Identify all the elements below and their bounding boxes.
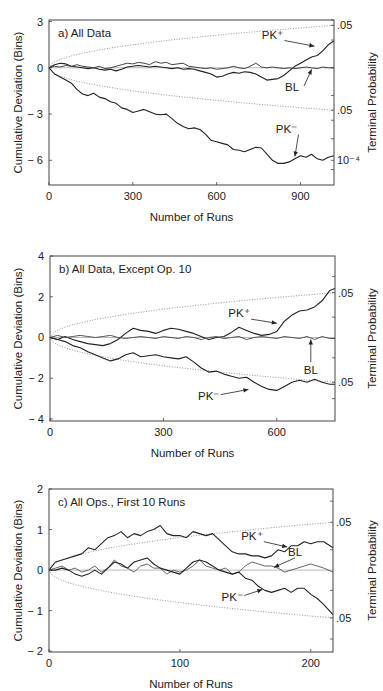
- arrowhead-icon: [272, 320, 277, 324]
- series-annotation: PK⁻: [198, 390, 219, 402]
- x-axis-label: Number of Runs: [151, 447, 235, 459]
- x-tick-label: 0: [47, 426, 53, 438]
- y-tick-label: 4: [38, 250, 44, 262]
- y-tick-label: 2: [37, 483, 43, 495]
- arrowhead-icon: [294, 151, 298, 156]
- right-tick-label: 10⁻⁴: [337, 154, 360, 166]
- series-annotation: PK⁻: [276, 123, 297, 135]
- right-axis-label: Terminal Probability: [366, 520, 378, 621]
- y-axis-label: Cumulative Deviation (Bins): [12, 499, 24, 641]
- panel-title: c) All Ops., First 10 Runs: [58, 496, 185, 508]
- y-tick-label: − 2: [27, 645, 43, 657]
- y-tick-label: − 1: [27, 605, 43, 617]
- y-tick-label: 1: [37, 524, 43, 536]
- arrowhead-icon: [309, 340, 313, 345]
- y-tick-label: 2: [38, 291, 44, 303]
- x-tick-label: 600: [207, 190, 225, 202]
- x-axis-label: Number of Runs: [149, 678, 233, 690]
- arrowhead-icon: [257, 589, 262, 593]
- series-pk-: [50, 338, 335, 391]
- x-tick-label: 900: [291, 190, 309, 202]
- series-annotation: PK⁺: [262, 29, 283, 41]
- x-tick-label: 100: [171, 657, 189, 669]
- y-axis-label: Cumulative Deviation (Bins): [12, 267, 24, 409]
- arrowhead-icon: [243, 388, 248, 392]
- right-tick-label: .05: [337, 19, 352, 31]
- y-tick-label: − 3: [27, 108, 43, 120]
- right-axis-label: Terminal Probability: [366, 52, 378, 153]
- series-annotation: BL: [285, 81, 300, 93]
- panel-b: 420− 2− 40300600.05.05b) All Data, Excep…: [12, 250, 378, 459]
- y-tick-label: − 2: [28, 372, 44, 384]
- series-annotation: BL: [288, 546, 303, 558]
- right-tick-label: .05: [336, 516, 351, 528]
- series-annotation: PK⁺: [241, 530, 262, 542]
- x-axis-label: Number of Runs: [150, 211, 234, 223]
- x-tick-label: 300: [154, 426, 172, 438]
- x-tick-label: 0: [46, 657, 52, 669]
- arrowhead-icon: [282, 544, 287, 548]
- figure: 30− 3− 60300600900.05.0510⁻⁴a) All DataN…: [0, 0, 383, 691]
- y-tick-label: − 4: [28, 413, 44, 425]
- y-tick-label: 0: [37, 62, 43, 74]
- y-tick-label: 3: [37, 16, 43, 28]
- right-tick-label: .05: [338, 376, 353, 388]
- y-tick-label: 0: [37, 564, 43, 576]
- x-tick-label: 600: [268, 426, 286, 438]
- series-annotation: PK⁻: [222, 591, 243, 603]
- y-tick-label: − 6: [27, 154, 43, 166]
- panel-a: 30− 3− 60300600900.05.0510⁻⁴a) All DataN…: [12, 16, 378, 223]
- panel-title: b) All Data, Except Op. 10: [59, 263, 191, 275]
- series-bl: [50, 335, 335, 339]
- y-axis-label: Cumulative Deviation (Bins): [12, 31, 24, 173]
- right-tick-label: .05: [336, 612, 351, 624]
- right-axis-label: Terminal Probability: [366, 288, 378, 389]
- y-tick-label: 0: [38, 331, 44, 343]
- envelope-lower: [49, 570, 333, 618]
- x-tick-label: 300: [124, 190, 142, 202]
- x-tick-label: 200: [302, 657, 320, 669]
- series-annotation: BL: [304, 364, 319, 376]
- x-tick-label: 0: [46, 190, 52, 202]
- series-pk-: [49, 558, 333, 615]
- right-tick-label: .05: [337, 104, 352, 116]
- right-tick-label: .05: [338, 287, 353, 299]
- panel-title: a) All Data: [58, 27, 112, 39]
- series-annotation: PK⁺: [228, 307, 249, 319]
- panel-c: 210− 1− 20100200.05.05c) All Ops., First…: [12, 483, 378, 690]
- arrowhead-icon: [309, 43, 314, 47]
- series-pk-: [49, 41, 334, 80]
- plot-frame: [50, 256, 335, 421]
